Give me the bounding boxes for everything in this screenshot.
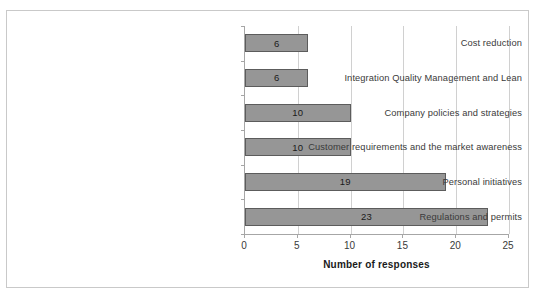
x-tick-label: 5 xyxy=(282,240,312,251)
x-tick-mark xyxy=(455,234,456,238)
x-tick-mark xyxy=(244,234,245,238)
x-tick-mark xyxy=(297,234,298,238)
category-tick xyxy=(241,95,245,96)
category-label: Company policies and strategies xyxy=(296,95,528,130)
category-label: Cost reduction xyxy=(296,26,528,61)
x-axis-line xyxy=(244,234,509,235)
category-tick xyxy=(241,61,245,62)
category-label: Personal initiatives xyxy=(296,165,528,200)
x-tick-label: 10 xyxy=(335,240,365,251)
category-tick xyxy=(241,26,245,27)
x-tick-mark xyxy=(350,234,351,238)
x-tick-label: 0 xyxy=(229,240,259,251)
x-tick-mark xyxy=(508,234,509,238)
category-tick xyxy=(241,199,245,200)
x-tick-label: 15 xyxy=(387,240,417,251)
category-tick xyxy=(241,130,245,131)
category-label: Integration Quality Management and Lean xyxy=(296,61,528,96)
chart-frame: 6610101923 Number of responses Cost redu… xyxy=(6,10,529,288)
x-tick-mark xyxy=(402,234,403,238)
x-axis-title: Number of responses xyxy=(244,259,509,270)
x-tick-label: 20 xyxy=(440,240,470,251)
category-label: Customer requirements and the market awa… xyxy=(296,130,528,165)
x-tick-label: 25 xyxy=(493,240,523,251)
category-tick xyxy=(241,165,245,166)
category-label: Regulations and permits xyxy=(296,199,528,234)
